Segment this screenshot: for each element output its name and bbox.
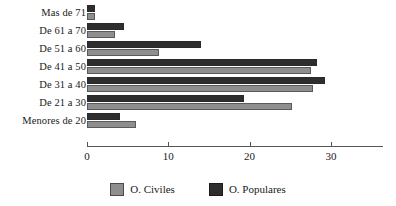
chart-category-row: De 21 a 30 — [0, 94, 396, 112]
bar-o-civiles — [87, 103, 292, 110]
category-label: De 51 a 60 — [0, 40, 86, 58]
plot-area: Mas de 71De 61 a 70De 51 a 60De 41 a 50D… — [0, 0, 396, 145]
bar-o-civiles — [87, 31, 115, 38]
legend-swatch-icon — [209, 183, 223, 196]
bar-o-populares — [87, 59, 317, 66]
chart-category-row: Mas de 71 — [0, 4, 396, 22]
chart-category-row: Menores de 20 — [0, 112, 396, 130]
chart-category-row: De 61 a 70 — [0, 22, 396, 40]
bar-o-populares — [87, 113, 120, 120]
legend-item[interactable]: O. Populares — [209, 183, 286, 196]
category-label: De 21 a 30 — [0, 94, 86, 112]
bar-o-civiles — [87, 121, 136, 128]
bar-chart: Mas de 71De 61 a 70De 51 a 60De 41 a 50D… — [0, 0, 396, 206]
bar-o-populares — [87, 5, 95, 12]
category-label: De 41 a 50 — [0, 58, 86, 76]
bar-o-civiles — [87, 13, 95, 20]
x-axis-tick-label: 30 — [316, 150, 346, 163]
bar-o-populares — [87, 41, 201, 48]
x-axis-line — [87, 146, 383, 147]
bar-o-civiles — [87, 67, 311, 74]
legend-swatch-icon — [110, 183, 124, 196]
x-axis-tick-label: 0 — [72, 150, 102, 163]
category-label: Menores de 20 — [0, 112, 86, 130]
bar-o-populares — [87, 77, 325, 84]
bar-o-populares — [87, 95, 244, 102]
chart-category-row: De 41 a 50 — [0, 58, 396, 76]
category-label: De 31 a 40 — [0, 76, 86, 94]
legend-item[interactable]: O. Civiles — [110, 183, 175, 196]
legend-label: O. Populares — [229, 183, 286, 196]
category-label: De 61 a 70 — [0, 22, 86, 40]
category-label: Mas de 71 — [0, 4, 86, 22]
chart-category-row: De 51 a 60 — [0, 40, 396, 58]
bar-o-civiles — [87, 49, 159, 56]
chart-legend: O. CivilesO. Populares — [0, 176, 396, 202]
bar-o-populares — [87, 23, 124, 30]
x-axis-tick-label: 10 — [153, 150, 183, 163]
bar-o-civiles — [87, 85, 313, 92]
chart-category-row: De 31 a 40 — [0, 76, 396, 94]
legend-label: O. Civiles — [130, 183, 175, 196]
x-axis-tick-label: 20 — [235, 150, 265, 163]
